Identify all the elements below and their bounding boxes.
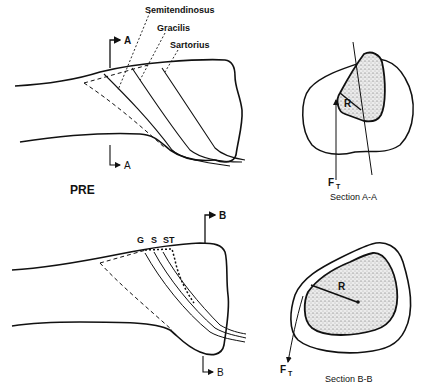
svg-text:A: A [124, 35, 131, 46]
section-a-marker-bottom: A [110, 145, 131, 171]
svg-text:B: B [219, 210, 226, 221]
section-a-cross-section: R F T [303, 42, 413, 190]
force-subscript-b: T [288, 370, 293, 377]
radius-label-b: R [338, 281, 346, 292]
top-bone-outline [15, 60, 242, 162]
force-label-b: F [280, 364, 286, 375]
label-st: ST [163, 235, 175, 245]
section-a-caption: Section A-A [330, 192, 377, 202]
knee-tendon-diagram: A A Semitendinosus Gracilis Sartorius PR… [0, 0, 427, 388]
state-label-pre: PRE [70, 183, 95, 197]
section-b-cross-section: R F T [280, 243, 411, 377]
force-label-a: F [328, 177, 334, 188]
svg-text:B: B [217, 367, 224, 378]
section-a-marker-top: A [110, 35, 131, 68]
section-b-caption: Section B-B [325, 374, 373, 384]
bottom-dashed-triangle [100, 250, 172, 330]
label-s: S [151, 235, 157, 245]
section-b-marker-bottom: B [203, 356, 224, 378]
bottom-tendon-lines [145, 252, 246, 342]
label-sartorius: Sartorius [170, 40, 210, 50]
force-subscript-a: T [336, 183, 341, 190]
svg-text:A: A [124, 160, 131, 171]
label-gracilis: Gracilis [157, 23, 190, 33]
label-g: G [137, 235, 144, 245]
radius-label-a: R [344, 98, 352, 109]
section-b-marker-top: B [205, 210, 226, 243]
label-semitendinosus: Semitendinosus [145, 5, 215, 15]
top-dashed-triangle [84, 65, 165, 148]
top-tendon-lines [104, 68, 245, 166]
